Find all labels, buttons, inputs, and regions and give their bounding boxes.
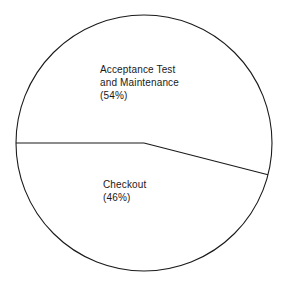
pie-divider-right [144,143,268,175]
pie-chart-figure: Acceptance Test and Maintenance (54%) Ch… [0,0,281,286]
slice-label-percent: (54%) [100,89,179,102]
slice-label-line-1: Acceptance Test [100,63,179,76]
slice-label-line-2: and Maintenance [100,76,179,89]
slice-label-acceptance-test-and-maintenance: Acceptance Test and Maintenance (54%) [100,63,179,102]
slice-label-line-1: Checkout [103,178,146,191]
slice-label-checkout: Checkout (46%) [103,178,146,204]
slice-label-percent: (46%) [103,191,146,204]
pie-chart-graphic [0,0,281,286]
